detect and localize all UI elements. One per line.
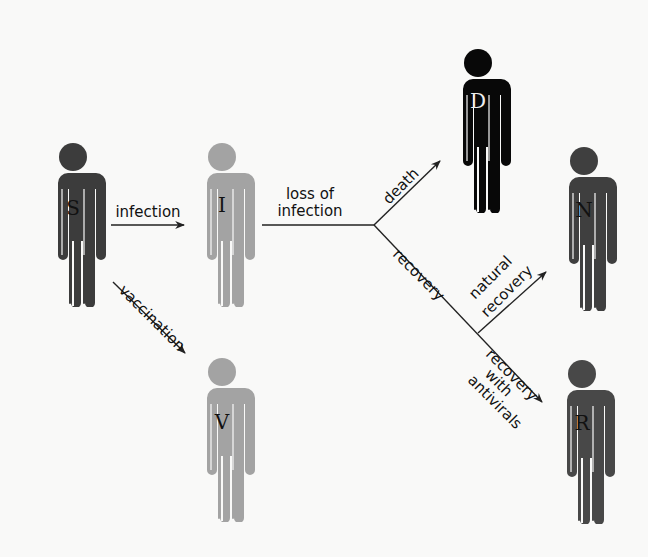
node-label-i: I [218, 193, 226, 217]
label-vaccination: vaccination [115, 281, 189, 355]
node-label-n: N [575, 198, 593, 222]
label-loss-of-line2: infection [277, 202, 342, 220]
label-death: death [379, 164, 422, 207]
diagram-canvas: S I V D N R in [0, 0, 648, 557]
person-icon-r [559, 360, 615, 525]
node-label-s: S [66, 196, 80, 220]
node-label-d: D [470, 89, 486, 113]
node-i: I [199, 143, 255, 308]
node-d: D [455, 49, 511, 214]
node-s: S [50, 143, 106, 308]
label-recovery: recovery [389, 245, 448, 304]
person-icon-s [50, 143, 106, 308]
node-r: R [559, 360, 615, 525]
label-infection: infection [115, 203, 180, 221]
label-loss-of-line1: loss of [286, 185, 335, 203]
node-v: V [199, 358, 255, 523]
node-label-v: V [214, 410, 230, 434]
node-n: N [561, 147, 617, 312]
node-label-r: R [574, 411, 590, 435]
person-icon-n [561, 147, 617, 312]
person-icon-d [455, 49, 511, 214]
person-icon-v [199, 358, 255, 523]
person-icon-i [199, 143, 255, 308]
